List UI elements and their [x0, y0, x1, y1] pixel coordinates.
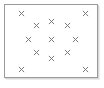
data-point-times-icon	[18, 10, 25, 17]
data-point-times-icon	[48, 18, 55, 25]
data-point-times-icon	[48, 36, 55, 43]
data-point-times-icon	[72, 36, 79, 43]
scatter-plot-figure	[0, 0, 104, 88]
data-point-times-icon	[82, 10, 89, 17]
data-point-times-icon	[82, 66, 89, 73]
data-point-times-icon	[33, 49, 40, 56]
data-point-times-icon	[25, 36, 32, 43]
data-point-times-icon	[64, 22, 71, 29]
data-point-times-icon	[33, 22, 40, 29]
data-points-layer	[5, 5, 97, 77]
data-point-times-icon	[64, 49, 71, 56]
plot-frame	[4, 4, 98, 78]
data-point-times-icon	[18, 66, 25, 73]
data-point-times-icon	[48, 55, 55, 62]
